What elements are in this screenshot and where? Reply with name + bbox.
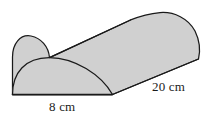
length-dimension-label: 20 cm [152,79,185,95]
half-cylinder-figure: 8 cm 20 cm [0,0,218,117]
width-dimension-label: 8 cm [49,99,75,115]
half-cylinder-drawing [0,0,218,117]
